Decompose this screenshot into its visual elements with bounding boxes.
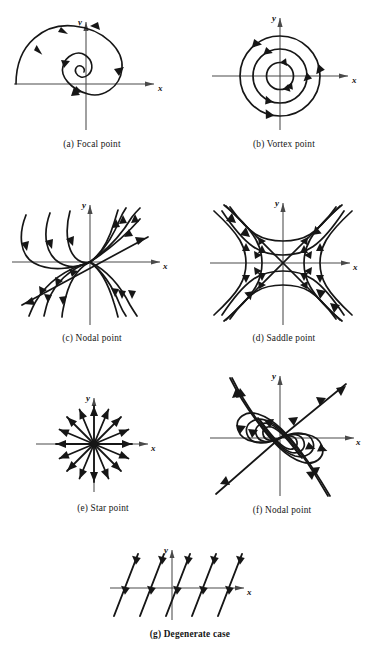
plot-vortex-point: x y bbox=[200, 6, 368, 134]
plot-degenerate-case: x y bbox=[104, 544, 276, 624]
plot-focal-point: x y bbox=[8, 6, 176, 134]
panel-saddle-point: x y bbox=[200, 193, 368, 343]
axis-label-y: y bbox=[271, 371, 277, 381]
plot-star-point: x y bbox=[30, 380, 176, 496]
svg-nodal-point-degenerate: x y bbox=[196, 372, 368, 500]
axis-arrowheads-degenerate bbox=[170, 550, 245, 591]
star-origin-dot bbox=[91, 441, 98, 448]
axis-label-y: y bbox=[85, 393, 91, 403]
axis-label-x: x bbox=[157, 83, 163, 93]
axis-label-x: x bbox=[150, 443, 156, 453]
svg-saddle-point: x y bbox=[200, 193, 368, 329]
axis-label-y: y bbox=[274, 198, 280, 208]
panel-focal-point: x y (a) Focal point bbox=[8, 6, 176, 149]
plot-saddle-point: x y bbox=[200, 193, 368, 329]
axis-label-y: y bbox=[81, 200, 87, 210]
plot-nodal-point-degenerate: x y bbox=[196, 372, 368, 500]
axis-label-x: x bbox=[352, 262, 358, 272]
axis-label-y: y bbox=[271, 13, 277, 23]
node-arrowheads bbox=[21, 214, 146, 305]
caption-focal-point: (a) Focal point bbox=[8, 140, 176, 149]
plot-nodal-point-proper: x y bbox=[8, 193, 176, 329]
panel-nodal-point-degenerate: x y bbox=[196, 372, 368, 515]
axis-arrowheads-vortex bbox=[277, 18, 348, 79]
caption-nodal-point-proper: (c) Nodal point bbox=[8, 334, 176, 343]
axis-label-x: x bbox=[351, 75, 357, 85]
svg-focal-point: x y bbox=[8, 6, 176, 134]
axes-vortex bbox=[212, 18, 348, 130]
panel-nodal-point-proper: x y bbox=[8, 193, 176, 343]
caption-star-point: (e) Star point bbox=[30, 504, 176, 513]
svg-nodal-point-proper: x y bbox=[8, 193, 176, 329]
axis-label-x: x bbox=[355, 437, 361, 447]
panel-degenerate-case: x y bbox=[104, 544, 276, 639]
axis-label-x: x bbox=[246, 587, 252, 597]
svg-vortex-point: x y bbox=[200, 6, 368, 134]
svg-degenerate-case: x y bbox=[104, 544, 276, 624]
spiral-arrowheads bbox=[34, 22, 124, 96]
axis-label-x: x bbox=[162, 261, 168, 271]
panel-vortex-point: x y bbox=[200, 6, 368, 149]
axis-label-y: y bbox=[77, 17, 83, 27]
caption-nodal-point-degenerate: (f) Nodal point bbox=[196, 506, 368, 515]
panel-star-point: x y bbox=[30, 380, 176, 513]
caption-degenerate-case: (g) Degenerate case bbox=[104, 630, 276, 639]
figure-page: x y (a) Focal point bbox=[0, 0, 378, 649]
caption-vortex-point: (b) Vortex point bbox=[200, 140, 368, 149]
svg-star-point: x y bbox=[30, 380, 176, 496]
degenerate-lines bbox=[114, 554, 242, 616]
caption-saddle-point: (d) Saddle point bbox=[200, 334, 368, 343]
